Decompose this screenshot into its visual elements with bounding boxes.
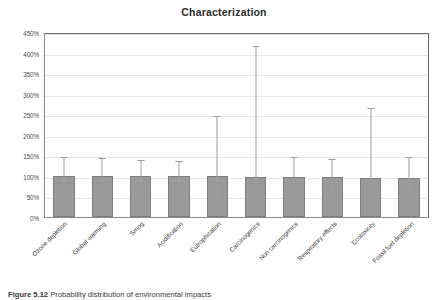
error-bar-line [255,46,256,207]
y-axis-tick-label: 300% [23,91,39,98]
error-bar-line [332,159,333,195]
y-axis-tick-label: 350% [23,71,39,78]
bar-slot [313,34,351,217]
y-axis-tick-labels: 0%50%100%150%200%250%300%350%400%450% [0,33,42,218]
figure-caption-text: Probability distribution of environmenta… [50,290,211,299]
error-bar-cap [329,159,336,160]
error-bar-cap [252,207,259,208]
y-axis-tick-label: 200% [23,132,39,139]
error-bar-cap [252,46,259,47]
error-bar-cap [405,193,412,194]
chart-title: Characterization [0,6,448,18]
y-axis-tick-label: 0% [30,215,39,222]
bar-slot [390,34,428,217]
bar-slot [83,34,121,217]
error-bar-line [217,116,218,197]
bar-slot [351,34,389,217]
bar-slot [237,34,275,217]
y-axis-tick-label: 150% [23,153,39,160]
plot-wrapper [44,33,429,218]
y-axis-tick-label: 400% [23,50,39,57]
error-bar-line [370,108,371,203]
error-bar-cap [99,193,106,194]
error-bar-cap [290,157,297,158]
error-bar-cap [329,196,336,197]
error-bar-cap [214,116,221,117]
figure-container: Characterization 0%50%100%150%200%250%30… [0,0,448,300]
error-bar-cap [214,198,221,199]
bar-slot [275,34,313,217]
figure-caption-label: Figure 5.12 [8,290,48,299]
error-bar-line [64,157,65,196]
y-axis-tick-label: 100% [23,173,39,180]
error-bar-line [408,157,409,194]
error-bar-cap [99,158,106,159]
error-bar-line [293,157,294,197]
error-bar-cap [290,196,297,197]
error-bar-cap [367,108,374,109]
plot-area [44,33,429,218]
error-bar-cap [405,157,412,158]
y-axis-tick-label: 450% [23,30,39,37]
y-axis-tick-label: 50% [27,194,39,201]
error-bar-line [179,161,180,193]
error-bar-cap [61,157,68,158]
error-bar-line [102,158,103,193]
figure-caption: Figure 5.12 Probability distribution of … [8,290,438,299]
bar-slot [198,34,236,217]
bar-slot [160,34,198,217]
error-bar-cap [176,161,183,162]
error-bar-cap [367,203,374,204]
y-axis-tick-label: 250% [23,112,39,119]
bar-slot [45,34,83,217]
error-bar-line [140,160,141,194]
error-bar-cap [137,160,144,161]
bar-slot [122,34,160,217]
x-axis-category-labels: Ozone depletionGlobal warmingSmogAcidifi… [44,218,429,288]
error-bar-cap [61,196,68,197]
error-bar-cap [137,194,144,195]
error-bar-cap [176,194,183,195]
